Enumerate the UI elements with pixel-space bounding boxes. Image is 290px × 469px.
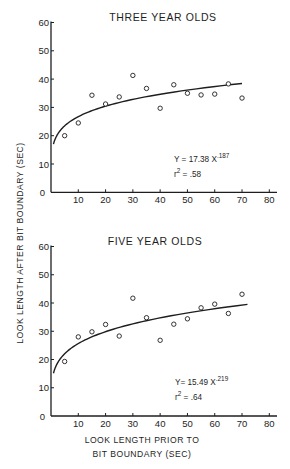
panel-title: FIVE YEAR OLDS (108, 235, 203, 247)
x-tick-label: 40 (155, 194, 166, 205)
data-point (213, 92, 217, 96)
data-point (185, 91, 189, 95)
data-point (144, 315, 148, 319)
data-point (199, 93, 203, 97)
data-point (213, 302, 217, 306)
y-tick-label: 40 (38, 74, 49, 85)
y-tick-label: 0 (40, 187, 45, 198)
figure: LOOK LENGTH AFTER BIT BOUNDARY (SEC) THR… (0, 0, 290, 469)
x-tick-label: 40 (155, 418, 166, 429)
y-tick-label: 60 (38, 17, 49, 28)
power-fit-curve (53, 304, 247, 373)
y-axis-title: LOOK LENGTH AFTER BIT BOUNDARY (SEC) (15, 142, 25, 343)
data-point (144, 86, 148, 90)
svg-text:Y= 15.49 X.219: Y= 15.49 X.219 (175, 375, 229, 388)
equation-exponent: .219 (216, 375, 229, 382)
data-point (103, 322, 107, 326)
equation-exponent: .187 (217, 152, 230, 159)
r2-value: = .58 (180, 170, 201, 179)
x-tick-label: 20 (100, 194, 111, 205)
data-point (76, 121, 80, 125)
data-point (62, 134, 66, 138)
axes: 01020304050601020304050607080 (38, 241, 277, 429)
data-point (172, 83, 176, 87)
x-axis-title-line2: BIT BOUNDARY (SEC) (93, 449, 192, 459)
x-tick-label: 20 (100, 418, 111, 429)
figure-canvas: LOOK LENGTH AFTER BIT BOUNDARY (SEC) THR… (0, 0, 290, 469)
y-tick-label: 60 (38, 241, 49, 252)
data-point (131, 73, 135, 77)
y-tick-label: 40 (38, 298, 49, 309)
data-points (62, 73, 244, 138)
equation-annotation: Y= 15.49 X.219 r2 = .64 (175, 375, 229, 403)
svg-text:Y = 17.38 X.187: Y = 17.38 X.187 (174, 152, 230, 165)
y-tick-label: 10 (38, 382, 49, 393)
svg-text:r2 = .64: r2 = .64 (175, 390, 202, 402)
data-point (226, 311, 230, 315)
data-point (76, 335, 80, 339)
fit-curve (53, 304, 247, 373)
panel-title: THREE YEAR OLDS (109, 11, 216, 23)
data-point (90, 93, 94, 97)
equation-annotation: Y = 17.38 X.187 r2 = .58 (174, 152, 230, 180)
y-tick-label: 50 (38, 45, 49, 56)
x-tick-label: 60 (209, 418, 220, 429)
x-tick-label: 70 (237, 194, 248, 205)
x-tick-label: 10 (73, 194, 84, 205)
panel-three-year-olds: THREE YEAR OLDS 010203040506010203040506… (38, 11, 277, 205)
x-tick-label: 50 (182, 418, 193, 429)
x-tick-label: 50 (182, 194, 193, 205)
data-point (158, 106, 162, 110)
panel-five-year-olds: FIVE YEAR OLDS 0102030405060102030405060… (38, 235, 277, 429)
x-tick-label: 10 (73, 418, 84, 429)
data-point (158, 338, 162, 342)
data-point (131, 296, 135, 300)
r2-value: = .64 (181, 393, 202, 402)
x-tick-label: 30 (128, 418, 139, 429)
data-point (185, 317, 189, 321)
data-point (90, 330, 94, 334)
data-point (199, 306, 203, 310)
equation-text: Y = 17.38 X (174, 155, 217, 164)
x-tick-label: 30 (128, 194, 139, 205)
y-tick-label: 20 (38, 130, 49, 141)
data-point (62, 359, 66, 363)
x-tick-label: 70 (237, 418, 248, 429)
x-tick-label: 80 (264, 194, 275, 205)
x-axis-title-line1: LOOK LENGTH PRIOR TO (85, 435, 200, 445)
data-point (226, 82, 230, 86)
y-tick-label: 30 (38, 102, 49, 113)
data-point (117, 334, 121, 338)
data-point (240, 292, 244, 296)
data-point (240, 96, 244, 100)
data-point (172, 322, 176, 326)
data-point (103, 102, 107, 106)
x-tick-label: 80 (264, 418, 275, 429)
equation-text: Y= 15.49 X (175, 378, 216, 387)
y-tick-label: 20 (38, 354, 49, 365)
svg-text:r2 = .58: r2 = .58 (174, 167, 201, 179)
y-tick-label: 0 (40, 411, 45, 422)
y-tick-label: 10 (38, 159, 49, 170)
x-tick-label: 60 (209, 194, 220, 205)
y-tick-label: 30 (38, 326, 49, 337)
data-points (62, 292, 244, 364)
axes: 01020304050601020304050607080 (38, 17, 277, 205)
y-tick-label: 50 (38, 269, 49, 280)
data-point (117, 95, 121, 99)
